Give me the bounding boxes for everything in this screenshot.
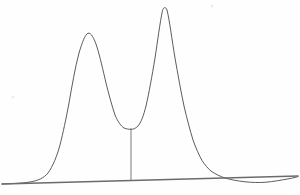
- chromatogram-chart: [0, 0, 300, 195]
- speck-upper-right: [210, 4, 213, 7]
- chart-background: [0, 0, 300, 195]
- chart-canvas: [0, 0, 300, 195]
- speck-mid-left: [11, 95, 14, 98]
